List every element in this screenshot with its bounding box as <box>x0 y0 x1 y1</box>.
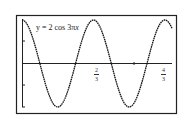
tick-label-4-3: 43 <box>161 67 166 82</box>
graph-window <box>0 0 183 123</box>
equation-label: y = 2 cos 3πx <box>36 23 79 32</box>
tick-label-2-3: 23 <box>94 67 99 82</box>
